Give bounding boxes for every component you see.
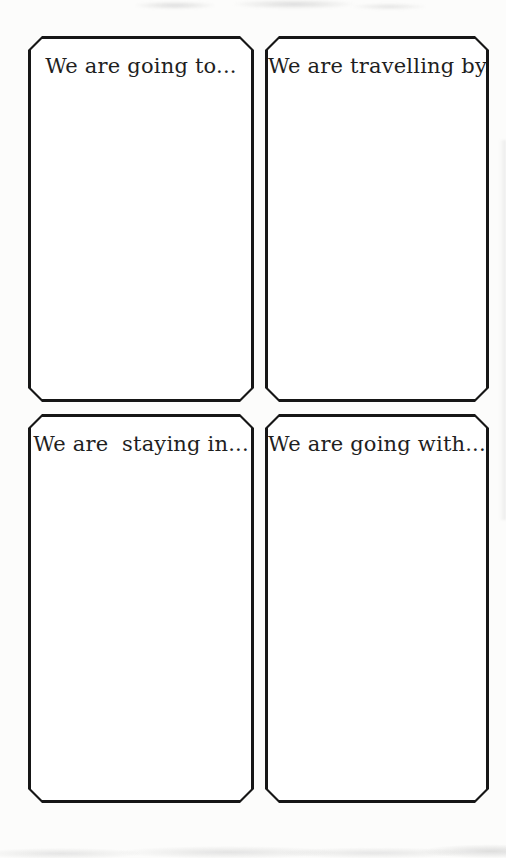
scan-smudge-right [499, 140, 506, 520]
card-travelling-by: We are travelling by... [265, 36, 489, 402]
scan-smudge-top [90, 0, 430, 12]
card-blank-area: We are going to... [31, 39, 251, 399]
card-going-with: We are going with... [265, 414, 489, 803]
card-blank-area: We are going with... [268, 417, 486, 800]
card-going-to: We are going to... [28, 36, 254, 402]
card-prompt-going-with: We are going with... [268, 417, 486, 457]
card-prompt-travelling-by: We are travelling by... [268, 39, 486, 79]
card-prompt-going-to: We are going to... [31, 39, 251, 79]
card-prompt-staying-in: We are staying in... [31, 417, 251, 457]
card-blank-area: We are travelling by... [268, 39, 486, 399]
card-blank-area: We are staying in... [31, 417, 251, 800]
worksheet-page: We are going to... We are travelling by.… [0, 0, 506, 858]
card-staying-in: We are staying in... [28, 414, 254, 803]
scan-smudge-bottom [0, 843, 506, 858]
